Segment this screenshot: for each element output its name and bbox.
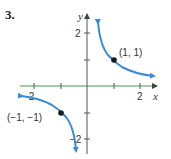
x-tick-label-2: 2 bbox=[137, 91, 143, 102]
point-label-1-1: (1, 1) bbox=[119, 47, 142, 58]
point-label-neg1-neg1: (−1, −1) bbox=[7, 112, 42, 123]
graph: −2 2 2 −2 x y (1, 1) (−1, −1) bbox=[0, 0, 171, 159]
y-axis-label: y bbox=[77, 10, 83, 22]
y-tick-label-2: 2 bbox=[75, 28, 81, 39]
point-1-1 bbox=[111, 57, 117, 63]
point-neg1-neg1 bbox=[58, 110, 64, 116]
curve-negative-branch bbox=[21, 96, 76, 150]
x-axis-label: x bbox=[152, 90, 158, 102]
